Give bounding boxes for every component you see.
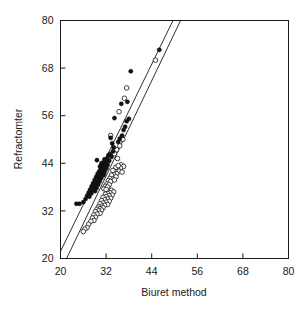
x-tick-label: 20 bbox=[55, 265, 67, 277]
y-axis-tick-labels: 203244566880 bbox=[42, 14, 54, 264]
data-point-open bbox=[115, 156, 120, 161]
x-tick-label: 32 bbox=[100, 265, 112, 277]
y-tick-label: 80 bbox=[42, 14, 54, 26]
y-axis-ticks bbox=[61, 68, 66, 211]
y-axis-title: Refractomter bbox=[12, 108, 24, 169]
data-point-open bbox=[116, 163, 121, 168]
data-point-open bbox=[117, 144, 122, 149]
data-point-filled bbox=[110, 141, 114, 145]
x-tick-label: 44 bbox=[146, 265, 158, 277]
data-point-open bbox=[111, 168, 116, 173]
x-axis-ticks bbox=[106, 254, 243, 259]
y-tick-label: 20 bbox=[42, 252, 54, 264]
y-tick-label: 56 bbox=[42, 109, 54, 121]
data-point-filled bbox=[112, 145, 116, 149]
x-tick-label: 80 bbox=[283, 265, 295, 277]
data-point-open bbox=[122, 96, 127, 101]
data-point-open bbox=[124, 86, 129, 91]
data-point-filled bbox=[95, 158, 99, 162]
data-point-filled bbox=[87, 195, 91, 199]
upper-fit-line bbox=[61, 21, 173, 252]
data-point-open bbox=[117, 109, 122, 114]
x-tick-label: 68 bbox=[237, 265, 249, 277]
data-point-filled bbox=[121, 128, 125, 132]
data-point-open bbox=[120, 170, 125, 175]
data-point-filled bbox=[118, 137, 122, 141]
data-point-filled bbox=[109, 136, 113, 140]
data-point-filled bbox=[129, 69, 133, 73]
data-point-filled bbox=[112, 116, 116, 120]
data-point-open bbox=[112, 178, 117, 183]
data-point-filled bbox=[74, 202, 78, 206]
x-axis-title: Biuret method bbox=[141, 286, 207, 298]
x-tick-label: 56 bbox=[191, 265, 203, 277]
scatter-plot-figure: 203244566880 203244566880 Biuret method … bbox=[0, 0, 304, 309]
chart-canvas: 203244566880 203244566880 Biuret method … bbox=[0, 0, 304, 309]
data-point-filled bbox=[109, 155, 113, 159]
open-circle-data-points bbox=[81, 58, 158, 234]
data-point-open bbox=[153, 58, 158, 63]
data-point-open bbox=[81, 229, 86, 234]
y-tick-label: 68 bbox=[42, 62, 54, 74]
data-point-filled bbox=[93, 189, 97, 193]
y-tick-label: 44 bbox=[42, 157, 54, 169]
data-point-filled bbox=[119, 102, 123, 106]
data-point-filled bbox=[157, 48, 161, 52]
x-axis-tick-labels: 203244566880 bbox=[55, 265, 295, 277]
data-point-filled bbox=[125, 119, 129, 123]
y-tick-label: 32 bbox=[42, 205, 54, 217]
data-point-filled bbox=[125, 100, 129, 104]
